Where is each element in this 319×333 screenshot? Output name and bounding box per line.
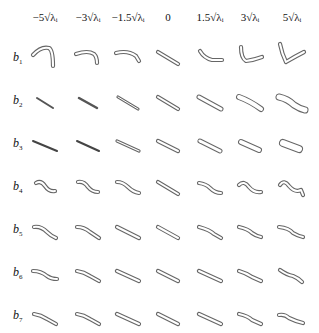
row-b4 <box>36 182 303 195</box>
row-b2 <box>37 97 305 110</box>
row-b3 <box>33 141 299 151</box>
row-b7 <box>34 314 303 324</box>
row-b5 <box>34 227 303 238</box>
row-b6 <box>33 270 302 282</box>
row-b1 <box>33 44 304 66</box>
shape-grid <box>0 0 319 333</box>
